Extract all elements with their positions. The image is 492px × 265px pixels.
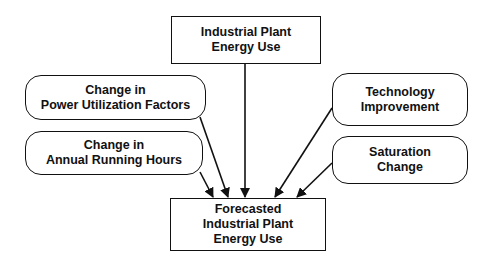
factor-label: Change [377, 160, 423, 175]
factor-technology-improvement: Technology Improvement [332, 73, 468, 126]
result-line-2: Industrial Plant [203, 217, 293, 232]
factor-label: Change in [84, 138, 144, 153]
source-line-1: Industrial Plant [201, 25, 291, 40]
factor-label: Saturation [369, 145, 431, 160]
result-line-3: Energy Use [214, 232, 283, 247]
arrow-power-to-result [200, 117, 228, 197]
factor-label: Improvement [361, 100, 440, 115]
factor-label: Technology [365, 85, 434, 100]
factor-label: Change in [85, 83, 145, 98]
factor-label: Annual Running Hours [46, 153, 182, 168]
source-box: Industrial Plant Energy Use [171, 16, 321, 64]
arrow-annual-to-result [200, 172, 213, 197]
result-line-1: Forecasted [215, 202, 282, 217]
arrow-saturation-to-result [297, 163, 332, 197]
factor-power-utilization: Change in Power Utilization Factors [25, 75, 206, 120]
factor-saturation-change: Saturation Change [332, 136, 468, 184]
factor-label: Power Utilization Factors [41, 98, 190, 113]
arrow-tech-to-result [275, 108, 332, 197]
result-box: Forecasted Industrial Plant Energy Use [170, 198, 326, 251]
source-line-2: Energy Use [212, 40, 281, 55]
factor-annual-running-hours: Change in Annual Running Hours [25, 131, 203, 175]
